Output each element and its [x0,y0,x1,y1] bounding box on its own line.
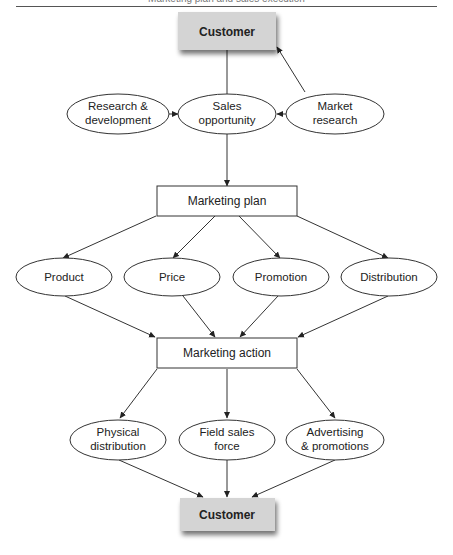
promotion-label: Promotion [255,271,307,283]
customer-top-label: Customer [199,25,255,39]
marketing-plan-label: Marketing plan [188,194,267,208]
advertising-promotions-label-2: & promotions [301,440,369,452]
research-dev-label-1: Research & [88,100,148,112]
node-market-research: Market research [286,94,384,134]
advertising-promotions-label-1: Advertising [307,426,364,438]
edge-promotion-to-action [240,296,278,337]
node-distribution: Distribution [341,258,437,296]
flow-diagram: Customer Research & development Sales op… [0,0,453,555]
edge-product-to-action [65,296,155,337]
node-advertising-promotions: Advertising & promotions [286,420,384,460]
node-field-sales-force: Field sales force [179,420,275,460]
node-price: Price [124,258,220,296]
field-sales-force-label-1: Field sales [200,426,255,438]
marketing-action-label: Marketing action [183,346,271,360]
edge-distribution-to-action [298,296,388,337]
distribution-label: Distribution [360,271,418,283]
price-label: Price [159,271,185,283]
node-product: Product [16,258,112,296]
diagram-page: Marketing plan and sales execution [0,0,453,555]
edge-market-research-to-customer [277,47,305,92]
edge-plan-to-promotion [239,216,280,258]
physical-distribution-label-1: Physical [97,426,140,438]
node-customer-top: Customer [178,12,276,50]
edge-action-to-physical [120,369,157,418]
edge-plan-to-product [63,216,156,258]
node-marketing-action: Marketing action [157,338,297,368]
field-sales-force-label-2: force [214,440,240,452]
node-promotion: Promotion [233,258,329,296]
market-research-label-2: research [313,114,358,126]
market-research-label-1: Market [317,100,353,112]
edge-plan-to-price [173,216,215,258]
edge-action-to-advertising [297,369,335,418]
node-physical-distribution: Physical distribution [70,420,166,460]
node-sales-opportunity: Sales opportunity [178,94,276,134]
sales-opportunity-label-2: opportunity [199,114,256,126]
physical-distribution-label-2: distribution [90,440,146,452]
customer-bottom-label: Customer [199,508,255,522]
sales-opportunity-label-1: Sales [213,100,242,112]
edge-plan-to-distribution [297,216,388,258]
edge-physical-to-customer [119,460,203,497]
edge-advertising-to-customer [252,460,335,497]
node-marketing-plan: Marketing plan [157,186,297,216]
product-label: Product [44,271,84,283]
research-dev-label-2: development [85,114,152,126]
node-research-development: Research & development [67,94,169,134]
edge-price-to-action [183,296,215,337]
node-customer-bottom: Customer [180,498,275,531]
